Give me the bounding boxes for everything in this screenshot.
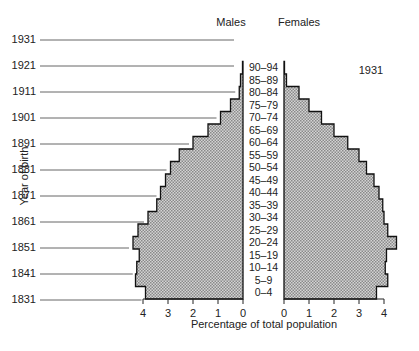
age-group-label: 30–34 xyxy=(249,211,278,223)
birth-year-label: 1931 xyxy=(12,33,36,45)
age-group-label: 10–14 xyxy=(249,261,278,273)
age-group-label: 70–74 xyxy=(249,111,278,123)
birth-year-label: 1891 xyxy=(12,137,36,149)
age-group-label: 35–39 xyxy=(249,199,278,211)
x-axes: 4321001234 xyxy=(140,299,387,319)
males-label: Males xyxy=(216,16,246,28)
birth-year-label: 1901 xyxy=(12,111,36,123)
x-tick-label: 4 xyxy=(140,307,146,319)
age-group-label: 45–49 xyxy=(249,174,278,186)
age-group-label: 75–79 xyxy=(249,99,278,111)
age-group-label: 85–89 xyxy=(249,74,278,86)
x-tick-label: 4 xyxy=(381,307,387,319)
females-bars xyxy=(284,62,397,300)
age-group-label: 40–44 xyxy=(249,186,278,198)
age-group-label: 65–69 xyxy=(249,124,278,136)
birth-year-label: 1871 xyxy=(12,189,36,201)
age-group-label: 15–19 xyxy=(249,249,278,261)
age-group-label: 20–24 xyxy=(249,236,278,248)
age-group-label: 5–9 xyxy=(255,274,273,286)
chart-year-title: 1931 xyxy=(359,64,383,76)
x-tick-label: 3 xyxy=(356,307,362,319)
population-pyramid-chart: Males Females 1931 Year of birth 1831184… xyxy=(0,0,419,351)
birth-year-label: 1831 xyxy=(12,293,36,305)
age-group-label: 55–59 xyxy=(249,149,278,161)
age-group-label: 80–84 xyxy=(249,86,278,98)
x-tick-label: 3 xyxy=(165,307,171,319)
birth-year-label: 1921 xyxy=(12,59,36,71)
age-group-label: 90–94 xyxy=(249,61,278,73)
birth-year-label: 1841 xyxy=(12,267,36,279)
birth-year-label: 1911 xyxy=(12,85,36,97)
x-axis-label: Percentage of total population xyxy=(191,318,337,330)
males-bars xyxy=(133,62,243,300)
age-group-label: 50–54 xyxy=(249,161,278,173)
birth-year-label: 1881 xyxy=(12,163,36,175)
age-group-label: 0–4 xyxy=(255,286,273,298)
age-group-label: 60–64 xyxy=(249,136,278,148)
age-group-label: 25–29 xyxy=(249,224,278,236)
birth-year-label: 1861 xyxy=(12,215,36,227)
birth-year-label: 1851 xyxy=(12,241,36,253)
females-label: Females xyxy=(278,16,321,28)
age-group-labels: 0–45–910–1415–1920–2425–2930–3435–3940–4… xyxy=(249,61,278,298)
